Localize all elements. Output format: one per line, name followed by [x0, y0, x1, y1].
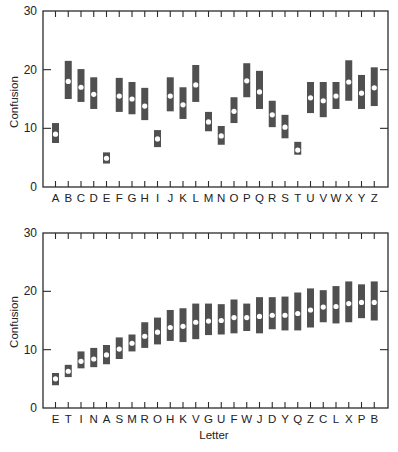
x-tick-label: Y	[358, 192, 366, 204]
x-tick-label: K	[179, 192, 187, 204]
x-tick-label: R	[268, 192, 276, 204]
mean-marker-A	[104, 352, 109, 357]
mean-marker-P	[244, 78, 249, 83]
mean-marker-T	[295, 147, 300, 152]
mean-marker-I	[155, 136, 160, 141]
x-axis-ticks: ETINASMROHKVGUFWJDYQZCLXPB	[52, 233, 379, 425]
mean-marker-I	[78, 359, 83, 364]
y-tick-label: 0	[30, 401, 37, 415]
x-tick-label: O	[230, 192, 239, 204]
range-bars	[52, 281, 378, 385]
x-axis-title: Letter	[199, 429, 229, 441]
mean-marker-S	[282, 125, 287, 130]
mean-marker-Q	[295, 311, 300, 316]
mean-marker-P	[359, 300, 364, 305]
x-tick-label: A	[103, 413, 111, 425]
mean-marker-U	[219, 318, 224, 323]
x-tick-label: B	[370, 413, 378, 425]
x-tick-label: E	[52, 413, 60, 425]
mean-marker-H	[168, 325, 173, 330]
x-tick-label: P	[358, 413, 366, 425]
x-tick-label: S	[115, 413, 123, 425]
mean-marker-L	[193, 82, 198, 87]
x-tick-label: C	[319, 413, 327, 425]
x-tick-label: V	[319, 192, 327, 204]
y-tick-label: 30	[24, 4, 38, 18]
mean-marker-Z	[308, 307, 313, 312]
y-tick-label: 20	[24, 63, 38, 77]
x-tick-label: D	[90, 192, 98, 204]
mean-marker-N	[91, 356, 96, 361]
mean-marker-E	[53, 376, 58, 381]
chart-canvas: 0102030 ABCDEFGHIJKLMNOPQRSTUVWXYZ Confu…	[0, 0, 398, 452]
x-tick-label: W	[331, 192, 342, 204]
x-tick-label: I	[156, 192, 159, 204]
x-tick-label: V	[192, 413, 200, 425]
mean-marker-J	[257, 314, 262, 319]
x-tick-label: E	[103, 192, 111, 204]
mean-marker-J	[168, 93, 173, 98]
mean-marker-O	[231, 109, 236, 114]
y-tick-label: 20	[24, 284, 38, 298]
mean-marker-W	[244, 315, 249, 320]
x-tick-label: Z	[307, 413, 314, 425]
x-tick-label: D	[268, 413, 276, 425]
y-tick-label: 0	[30, 180, 37, 194]
mean-marker-M	[206, 119, 211, 124]
mean-marker-T	[66, 369, 71, 374]
x-tick-label: X	[345, 192, 353, 204]
mean-marker-K	[180, 102, 185, 107]
mean-marker-A	[53, 132, 58, 137]
mean-marker-R	[270, 112, 275, 117]
bottom-panel-letter-sorted: 0102030 ETINASMROHKVGUFWJDYQZCLXPB Confu…	[8, 226, 388, 441]
x-tick-label: H	[141, 192, 149, 204]
y-tick-label: 10	[24, 343, 38, 357]
x-tick-label: F	[230, 413, 237, 425]
x-tick-label: G	[128, 192, 137, 204]
mean-marker-C	[321, 304, 326, 309]
x-tick-label: Q	[293, 413, 302, 425]
mean-marker-O	[155, 330, 160, 335]
mean-marker-C	[78, 85, 83, 90]
x-tick-label: N	[217, 192, 225, 204]
mean-marker-V	[321, 98, 326, 103]
mean-marker-K	[180, 324, 185, 329]
x-tick-label: Y	[281, 413, 289, 425]
mean-marker-B	[372, 300, 377, 305]
x-tick-label: H	[166, 413, 174, 425]
x-tick-label: K	[179, 413, 187, 425]
x-tick-label: F	[116, 192, 123, 204]
y-tick-label: 30	[24, 226, 38, 240]
x-axis-ticks: ABCDEFGHIJKLMNOPQRSTUVWXYZ	[52, 11, 378, 204]
mean-marker-V	[193, 320, 198, 325]
x-tick-label: Z	[371, 192, 378, 204]
x-tick-label: A	[52, 192, 60, 204]
y-axis-title: Confusion	[8, 76, 20, 128]
x-tick-label: X	[345, 413, 353, 425]
mean-marker-U	[308, 95, 313, 100]
y-axis-title: Confusion	[8, 296, 20, 348]
mean-marker-H	[142, 103, 147, 108]
top-panel-letter-alphabetical: 0102030 ABCDEFGHIJKLMNOPQRSTUVWXYZ Confu…	[8, 4, 388, 204]
mean-marker-Y	[359, 91, 364, 96]
mean-marker-F	[231, 315, 236, 320]
x-tick-label: O	[153, 413, 162, 425]
x-tick-label: T	[65, 413, 72, 425]
mean-marker-X	[346, 79, 351, 84]
mean-marker-G	[206, 318, 211, 323]
x-tick-label: G	[204, 413, 213, 425]
x-tick-label: P	[243, 192, 251, 204]
mean-marker-Q	[257, 89, 262, 94]
mean-marker-Z	[372, 85, 377, 90]
mean-marker-B	[66, 79, 71, 84]
x-tick-label: C	[77, 192, 85, 204]
mean-marker-S	[117, 346, 122, 351]
mean-marker-X	[346, 301, 351, 306]
x-tick-label: R	[141, 413, 149, 425]
x-tick-label: M	[127, 413, 137, 425]
x-tick-label: U	[306, 192, 314, 204]
x-tick-label: W	[241, 413, 252, 425]
mean-marker-N	[219, 133, 224, 138]
figure: 0102030 ABCDEFGHIJKLMNOPQRSTUVWXYZ Confu…	[0, 0, 398, 452]
x-tick-label: M	[204, 192, 214, 204]
